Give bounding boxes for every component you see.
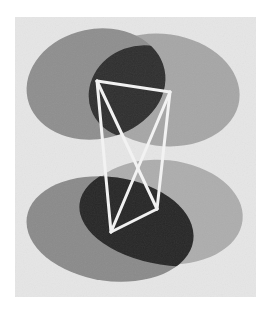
photo-scene	[0, 0, 270, 313]
film-grain	[15, 17, 256, 297]
